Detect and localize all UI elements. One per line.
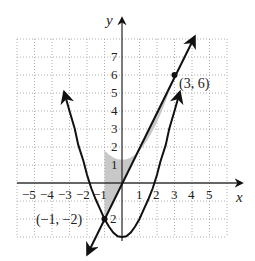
point-neg1-neg2 xyxy=(102,216,108,222)
y-axis-label: y xyxy=(104,12,113,28)
point-3-6 xyxy=(172,72,178,78)
x-tick: −5 xyxy=(22,187,36,202)
y-tick: 4 xyxy=(111,103,118,118)
x-tick: 3 xyxy=(171,187,178,202)
y-tick: 5 xyxy=(111,85,118,100)
x-tick: 5 xyxy=(206,187,213,202)
x-tick: −4 xyxy=(40,187,54,202)
y-tick: 2 xyxy=(110,211,117,226)
point-label-neg1-neg2: (−1, −2) xyxy=(36,212,82,228)
y-tick: 6 xyxy=(111,67,118,82)
x-axis-label: x xyxy=(235,189,243,205)
x-tick: 4 xyxy=(188,187,195,202)
y-tick: 1 xyxy=(111,157,118,172)
x-tick: 1 xyxy=(136,187,143,202)
axes xyxy=(17,18,242,241)
x-tick: −1 xyxy=(93,187,107,202)
x-tick: −2 xyxy=(76,187,90,202)
point-label-3-6: (3, 6) xyxy=(179,76,210,92)
x-tick: −3 xyxy=(58,187,72,202)
y-tick: 2 xyxy=(111,139,118,154)
graph: y x −5 −4 −3 −2 −1 1 2 3 4 5 1 2 3 4 5 6… xyxy=(0,0,255,261)
y-tick: 3 xyxy=(111,121,118,136)
y-tick: 7 xyxy=(111,49,118,64)
x-tick: 2 xyxy=(153,187,160,202)
